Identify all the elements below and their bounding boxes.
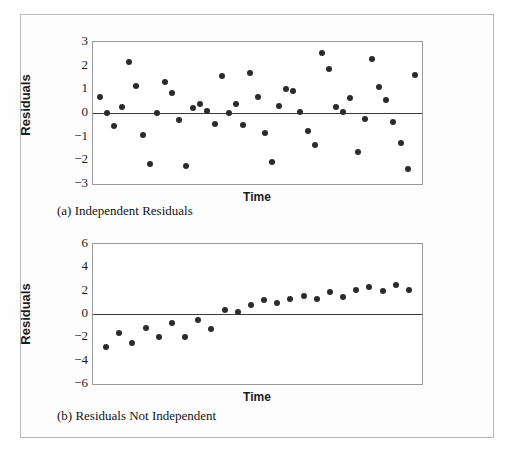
panel-b-data-point bbox=[222, 307, 228, 313]
panel-b-ytick-4: −2 bbox=[74, 328, 88, 344]
panel-b-data-point bbox=[182, 334, 188, 340]
panel-b-data-point bbox=[129, 340, 135, 346]
panel-b-y-axis-label: Residuals bbox=[18, 274, 34, 354]
panel-b-data-point bbox=[261, 297, 267, 303]
panel-b-y-tick-labels: 6420−2−4−6 bbox=[62, 243, 88, 385]
panel-b-zero-reference-line bbox=[93, 314, 422, 315]
panel-b-data-point bbox=[301, 293, 307, 299]
panel-b: Residuals 6420−2−4−6 Time (b) Residuals … bbox=[0, 0, 509, 456]
panel-b-data-point bbox=[208, 326, 214, 332]
panel-b-data-point bbox=[116, 330, 122, 336]
panel-b-data-point bbox=[156, 334, 162, 340]
panel-b-data-point bbox=[248, 302, 254, 308]
panel-b-ytick-6: −6 bbox=[74, 375, 88, 391]
figure-container: Residuals 3210−1−2−3 Time (a) Independen… bbox=[0, 0, 509, 456]
panel-b-data-point bbox=[169, 320, 175, 326]
panel-b-data-point bbox=[366, 284, 372, 290]
panel-b-ytick-5: −4 bbox=[74, 352, 88, 368]
panel-b-data-point bbox=[143, 325, 149, 331]
panel-b-data-point bbox=[380, 288, 386, 294]
panel-b-ytick-1: 4 bbox=[82, 258, 89, 274]
panel-b-data-point bbox=[314, 296, 320, 302]
panel-b-x-axis-label: Time bbox=[197, 390, 317, 404]
panel-b-plot-area bbox=[92, 243, 423, 385]
panel-b-data-point bbox=[327, 289, 333, 295]
panel-b-data-point bbox=[235, 309, 241, 315]
panel-b-data-point bbox=[103, 344, 109, 350]
panel-b-data-point bbox=[353, 287, 359, 293]
panel-b-data-point bbox=[393, 282, 399, 288]
panel-b-data-point bbox=[195, 317, 201, 323]
panel-b-caption: (b) Residuals Not Independent bbox=[57, 408, 216, 424]
panel-b-data-point bbox=[406, 287, 412, 293]
panel-b-data-point bbox=[340, 294, 346, 300]
panel-b-ytick-2: 2 bbox=[82, 282, 89, 298]
panel-b-data-point bbox=[287, 296, 293, 302]
panel-b-ytick-0: 6 bbox=[82, 235, 89, 251]
panel-b-ytick-3: 0 bbox=[82, 305, 89, 321]
panel-b-data-point bbox=[274, 300, 280, 306]
